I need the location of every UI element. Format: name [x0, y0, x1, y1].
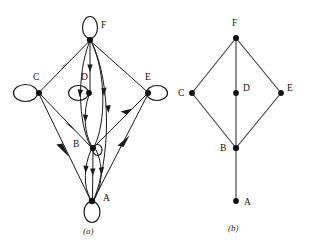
graph-a-svg: F C D E B A (a): [0, 0, 175, 245]
arrowhead-B-F: [101, 88, 106, 96]
vertex-label-b-B: B: [220, 143, 226, 153]
vertex-label-b-A: A: [244, 197, 251, 207]
vertex-b-B: [233, 145, 239, 151]
graph-b-svg: F C D E B A (b): [175, 0, 317, 245]
arrowhead-A-E: [118, 136, 130, 148]
edge-group-a-outer: [40, 42, 147, 199]
edge-C-B: [41, 95, 91, 147]
edge-b-C-B: [192, 93, 236, 148]
edge-C-A: [40, 96, 90, 199]
edge-group-b: [192, 38, 281, 201]
vertex-label-a-F: F: [101, 20, 106, 30]
vertex-b-F: [233, 35, 239, 41]
vertex-b-A: [233, 198, 239, 204]
self-loop-C: [14, 85, 38, 102]
arrowhead-D-B: [83, 115, 89, 122]
arrowhead-A-B-right: [99, 167, 104, 175]
edge-b-F-C: [192, 38, 236, 93]
arrowhead-F-D: [87, 65, 92, 73]
vertex-label-b-D: D: [243, 83, 250, 93]
vertex-b-E: [278, 90, 284, 96]
vertex-a-F: [87, 37, 93, 43]
vertex-label-b-F: F: [232, 18, 237, 28]
vertex-a-C: [36, 90, 42, 96]
arrowhead-B-E: [121, 109, 133, 115]
edge-b-E-B: [236, 93, 281, 148]
vertex-label-a-E: E: [145, 72, 151, 82]
vertex-a-D: [86, 90, 92, 96]
vertex-label-b-E: E: [287, 83, 293, 93]
vertex-label-b-C: C: [178, 88, 184, 98]
vertex-label-a-A: A: [103, 193, 110, 203]
panel-b-caption: (b): [228, 223, 239, 233]
self-loop-A: [84, 202, 100, 223]
self-loop-D: [69, 86, 89, 101]
vertex-a-E: [145, 90, 151, 96]
vertex-label-a-D: D: [81, 72, 88, 82]
arrowhead-B-A: [90, 169, 95, 177]
vertex-label-group-a: F C D E B A: [33, 20, 151, 203]
panel-b-simple-graph: F C D E B A (b): [175, 0, 317, 245]
self-loop-F: [83, 17, 98, 39]
vertex-b-D: [233, 90, 239, 96]
edge-B-F: [92, 43, 103, 146]
panel-a-directed-multigraph: F C D E B A (a): [0, 0, 175, 245]
vertex-group-a: [36, 37, 151, 204]
figure-root: F C D E B A (a): [0, 0, 317, 245]
panel-a-caption: (a): [83, 226, 94, 236]
arrowhead-B-A-left: [83, 166, 88, 173]
vertex-label-a-C: C: [33, 72, 39, 82]
edge-D-B: [85, 95, 91, 146]
vertex-label-a-B: B: [73, 139, 79, 149]
vertex-b-C: [189, 90, 195, 96]
arrowhead-C-A: [56, 144, 69, 158]
edge-A-B-curve-right: [95, 150, 102, 199]
arrowhead-C-B: [65, 122, 77, 132]
arrowhead-C-F: [59, 62, 68, 71]
vertex-a-A: [89, 198, 95, 204]
vertex-a-B: [90, 145, 96, 151]
